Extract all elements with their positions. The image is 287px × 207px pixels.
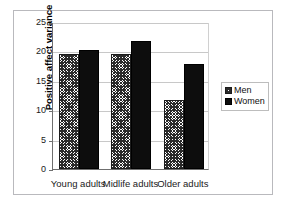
y-axis-tick-label: 15 bbox=[36, 77, 46, 86]
chart-legend: MenWomen bbox=[221, 82, 269, 111]
legend-item-women: Women bbox=[225, 96, 265, 107]
y-axis-tick-label: 5 bbox=[41, 136, 46, 145]
legend-label: Men bbox=[234, 86, 252, 95]
bar-men-older bbox=[164, 100, 184, 169]
y-axis-tick-labels: 0510152025 bbox=[22, 0, 46, 207]
bar-group bbox=[53, 24, 105, 169]
bar-group bbox=[158, 24, 210, 169]
bar-women-midlife bbox=[131, 41, 151, 169]
y-axis-tick-label: 20 bbox=[36, 47, 46, 56]
x-axis-tick-label: Older adults bbox=[149, 178, 217, 189]
plot-area bbox=[52, 23, 209, 170]
legend-swatch-women-icon bbox=[225, 98, 232, 105]
bar-group bbox=[105, 24, 157, 169]
bar-men-young bbox=[59, 54, 79, 169]
bar-women-young bbox=[79, 50, 99, 169]
chart-figure: Positive affect variance 0510152025 Youn… bbox=[0, 0, 287, 207]
bar-women-older bbox=[184, 64, 204, 169]
legend-swatch-men-icon bbox=[225, 87, 232, 94]
y-axis-tick bbox=[49, 170, 53, 171]
legend-label: Women bbox=[234, 97, 265, 106]
y-axis-tick-label: 0 bbox=[41, 165, 46, 174]
y-axis-tick-label: 10 bbox=[36, 106, 46, 115]
y-axis-tick-label: 25 bbox=[36, 18, 46, 27]
bar-men-midlife bbox=[111, 54, 131, 169]
legend-item-men: Men bbox=[225, 85, 265, 96]
